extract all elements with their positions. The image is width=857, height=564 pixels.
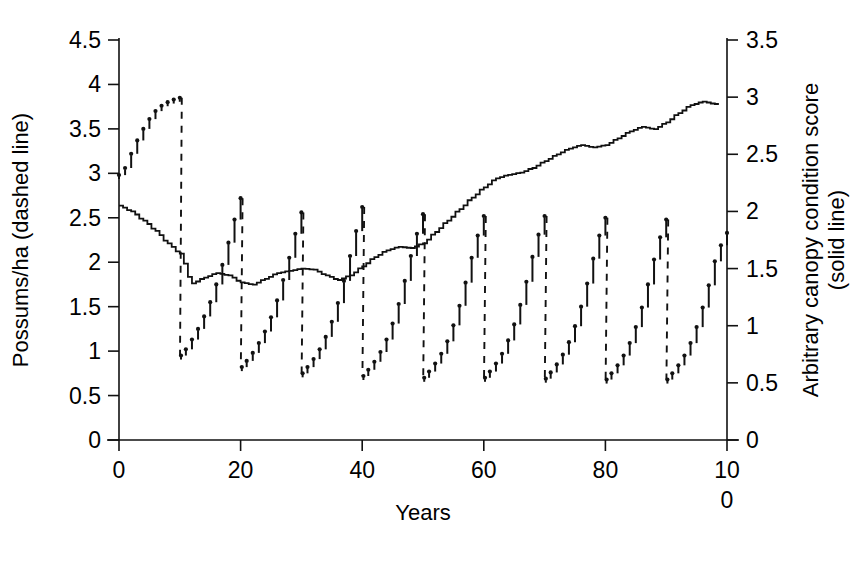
possum-year-point [652, 257, 656, 261]
x-axis-tick-label: 20 [228, 457, 254, 483]
left-axis-tick-label: 0.5 [69, 383, 101, 409]
right-axis-tick-label: 2 [746, 198, 759, 224]
possum-year-point [147, 117, 151, 121]
possum-year-point [342, 279, 346, 283]
possum-year-point [409, 254, 413, 258]
possum-year-point [220, 263, 224, 267]
possum-year-point [615, 363, 619, 367]
possum-year-point [378, 350, 382, 354]
chart-canvas: 00.511.522.533.544.500.511.522.533.50204… [0, 0, 857, 564]
right-axis-tick-label: 0 [746, 427, 759, 453]
possum-year-point [670, 371, 674, 375]
possum-year-point [463, 281, 467, 285]
possum-year-point [451, 323, 455, 327]
possum-year-point [397, 302, 401, 306]
possum-year-point [591, 257, 595, 261]
possum-year-point [628, 341, 632, 345]
possum-year-point [470, 256, 474, 260]
possum-year-point [682, 353, 686, 357]
possum-year-point [172, 97, 176, 101]
possum-year-point [301, 371, 305, 375]
possum-year-point [494, 361, 498, 365]
right-axis-tick-label: 2.5 [746, 141, 778, 167]
possum-year-point [245, 359, 249, 363]
possum-year-point [609, 371, 613, 375]
possum-year-point [506, 338, 510, 342]
possum-year-point [257, 341, 261, 345]
possum-year-point [153, 109, 157, 113]
possum-year-point [688, 341, 692, 345]
right-axis-tick-label: 0.5 [746, 370, 778, 396]
possum-year-point [658, 235, 662, 239]
possum-year-point [579, 305, 583, 309]
possum-year-point [701, 305, 705, 309]
possum-year-point [713, 259, 717, 263]
left-axis-tick-label: 2 [88, 249, 101, 275]
possum-year-point [439, 352, 443, 356]
possum-year-point [166, 100, 170, 104]
possum-year-point [585, 281, 589, 285]
possum-year-point [665, 377, 669, 381]
possum-year-point [646, 282, 650, 286]
possum-year-point [524, 280, 528, 284]
possum-year-point [184, 347, 188, 351]
possum-year-point [311, 357, 315, 361]
possum-year-point [135, 138, 139, 142]
figure-container: 00.511.522.533.544.500.511.522.533.50204… [0, 0, 857, 564]
possum-year-point [318, 347, 322, 351]
possum-year-point [208, 300, 212, 304]
possum-year-point [719, 243, 723, 247]
possum-year-point [366, 368, 370, 372]
left-axis-tick-label: 1 [88, 338, 101, 364]
possum-year-point [422, 376, 426, 380]
possum-year-point [415, 232, 419, 236]
left-axis-tick-label: 3 [88, 160, 101, 186]
possum-year-point [324, 335, 328, 339]
possum-year-point [232, 217, 236, 221]
y-axis-label: Possums/ha (dashed line) [8, 113, 33, 367]
possum-year-point [457, 304, 461, 308]
possum-year-point [483, 376, 487, 380]
x-axis-tick-label: 60 [471, 457, 497, 483]
possum-year-point [384, 337, 388, 341]
possum-year-point [433, 361, 437, 365]
possum-year-point [287, 256, 291, 260]
possum-year-point [214, 282, 218, 286]
possum-year-point [293, 232, 297, 236]
possum-year-point [159, 104, 163, 108]
x-axis-tick-label: 80 [593, 457, 619, 483]
possum-year-point [640, 305, 644, 309]
possum-year-point [500, 352, 504, 356]
possum-year-point [336, 301, 340, 305]
possum-year-point [196, 327, 200, 331]
possum-year-point [622, 353, 626, 357]
possum-year-point [573, 324, 577, 328]
left-axis-tick-label: 1.5 [69, 294, 101, 320]
possum-year-point [512, 322, 516, 326]
possum-year-point [445, 339, 449, 343]
possum-year-point [403, 279, 407, 283]
possum-year-point [561, 353, 565, 357]
possum-year-point [179, 353, 183, 357]
possum-year-point [251, 351, 255, 355]
right-axis-tick-label: 1 [746, 313, 759, 339]
possum-year-point [488, 369, 492, 373]
left-axis-tick-label: 4 [88, 71, 101, 97]
possum-year-point [123, 166, 127, 170]
possum-year-point [226, 241, 230, 245]
possum-year-point [695, 325, 699, 329]
possum-year-point [281, 278, 285, 282]
possum-year-point [117, 173, 121, 177]
possum-year-point [544, 377, 548, 381]
possum-year-point [348, 254, 352, 258]
possum-year-point [555, 362, 559, 366]
possum-year-point [141, 127, 145, 131]
x-axis-tick-label: 0 [113, 457, 126, 483]
possum-year-point [427, 369, 431, 373]
possum-year-point [269, 315, 273, 319]
possum-year-point [476, 233, 480, 237]
possum-year-point [634, 325, 638, 329]
possum-year-point [725, 231, 729, 235]
possum-year-point [202, 314, 206, 318]
possum-year-point [330, 320, 334, 324]
